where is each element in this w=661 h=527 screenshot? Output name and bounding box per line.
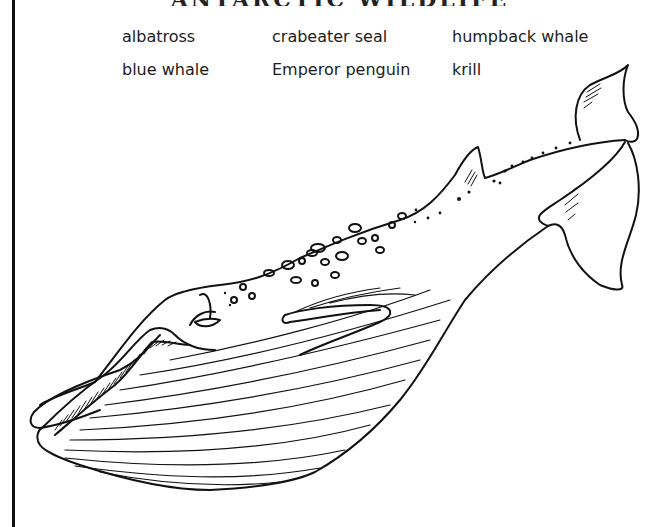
whale-upper-fluke (576, 65, 638, 142)
whale-mouth-inner (55, 342, 190, 435)
dorsal-fin-hatch (465, 170, 477, 186)
throat-pleats (65, 290, 450, 485)
blue-whale-illustration (0, 0, 661, 527)
whale-skin-dots (224, 142, 572, 307)
whale-back-outline (31, 140, 625, 428)
fluke-hatch (564, 84, 601, 220)
whale-eye-icon (190, 312, 220, 327)
whale-flipper (283, 305, 391, 355)
whale-lower-fluke (539, 142, 639, 290)
